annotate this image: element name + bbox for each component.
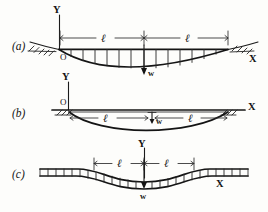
- panel-a-x-axis-label: X: [249, 53, 257, 64]
- beam-diagram-svg: (a) Y O: [0, 0, 268, 212]
- panel-a-span-left-label: ℓ: [101, 32, 106, 44]
- panel-c-span-left-label: ℓ: [117, 157, 122, 169]
- panel-b-x-axis-label: X: [248, 101, 256, 112]
- panel-c-label: (c): [12, 168, 25, 181]
- panel-a-label: (a): [12, 40, 26, 53]
- panel-c-load-label: w: [140, 191, 147, 201]
- panel-b-load-label: w: [156, 116, 163, 126]
- panel-b: (b) Y O X: [12, 71, 256, 130]
- panel-b-y-axis-label: Y: [62, 71, 70, 82]
- figure-root: (a) Y O: [0, 0, 268, 212]
- panel-b-origin-label: O: [60, 97, 67, 107]
- panel-a-load-label: w: [148, 68, 155, 78]
- panel-c: (c) Y: [12, 138, 248, 201]
- panel-b-span-left-label: ℓ: [103, 112, 108, 124]
- panel-b-label: (b): [12, 107, 26, 120]
- panel-a-y-axis-label: Y: [53, 4, 61, 15]
- panel-c-span-right-label: ℓ: [164, 157, 169, 169]
- panel-a-span-right-label: ℓ: [185, 32, 190, 44]
- panel-a-left-ground: [28, 42, 59, 56]
- panel-c-span-right-dimension: [144, 158, 194, 170]
- panel-b-beam-curve: [69, 112, 228, 130]
- panel-b-span-right-label: ℓ: [188, 112, 193, 124]
- panel-a: (a) Y O: [12, 4, 258, 78]
- panel-c-y-axis-label: Y: [138, 138, 146, 149]
- panel-c-x-axis-label: X: [216, 178, 224, 189]
- panel-c-load-arrow: [141, 160, 147, 189]
